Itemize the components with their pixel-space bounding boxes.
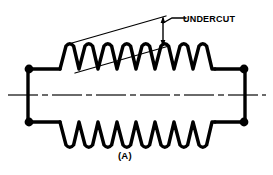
undercut-upper-extension-line (72, 16, 166, 43)
figure-canvas: UNDERCUT (A) (0, 0, 273, 175)
corner-dot-bottom-left (25, 118, 34, 127)
undercut-label: UNDERCUT (183, 14, 235, 24)
figure-caption: (A) (118, 150, 132, 161)
corner-dot-bottom-right (240, 118, 249, 127)
technical-drawing (0, 0, 273, 175)
top-thread-profile (60, 44, 215, 69)
corner-dot-top-left (25, 65, 34, 74)
corner-dot-top-right (240, 65, 249, 74)
bottom-thread-profile (60, 122, 215, 147)
